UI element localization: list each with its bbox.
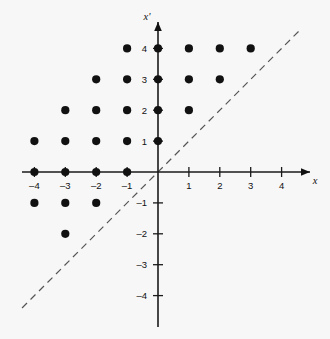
- data-point: [216, 75, 224, 83]
- x-tick-label: –2: [91, 180, 102, 191]
- data-point: [30, 137, 38, 145]
- data-point: [123, 44, 131, 52]
- data-point: [61, 230, 69, 238]
- data-point: [92, 168, 100, 176]
- plot-canvas: –4–3–2–112344321–1–2–3–4 x x': [0, 0, 330, 339]
- x-tick-label: –3: [60, 180, 71, 191]
- data-point: [30, 168, 38, 176]
- x-tick-label: –1: [122, 180, 133, 191]
- scatter-plot-figure: –4–3–2–112344321–1–2–3–4 x x': [0, 0, 330, 339]
- data-point: [154, 75, 162, 83]
- data-point: [92, 137, 100, 145]
- data-point: [185, 44, 193, 52]
- data-point: [30, 199, 38, 207]
- x-tick-label: –4: [29, 180, 40, 191]
- y-axis-arrowhead: [154, 22, 162, 31]
- data-point: [247, 44, 255, 52]
- y-tick-label: 3: [142, 74, 147, 85]
- y-tick-label: –1: [136, 197, 147, 208]
- data-point: [92, 199, 100, 207]
- y-tick-label: –4: [136, 290, 147, 301]
- data-point: [123, 137, 131, 145]
- data-point: [92, 75, 100, 83]
- x-axis-title: x: [312, 175, 318, 186]
- data-point: [61, 168, 69, 176]
- y-axis-title: x': [143, 11, 152, 22]
- data-point: [154, 106, 162, 114]
- data-point: [185, 106, 193, 114]
- x-axis-arrowhead: [301, 168, 310, 176]
- y-tick-label: 1: [142, 136, 147, 147]
- data-point: [123, 106, 131, 114]
- data-point: [61, 137, 69, 145]
- data-point: [123, 75, 131, 83]
- data-point: [154, 44, 162, 52]
- data-point: [61, 199, 69, 207]
- data-point: [216, 44, 224, 52]
- y-tick-label: 2: [142, 105, 147, 116]
- data-point: [185, 75, 193, 83]
- x-tick-label: 2: [217, 180, 222, 191]
- x-tick-label: 1: [186, 180, 191, 191]
- y-tick-label: –2: [136, 228, 147, 239]
- data-point: [61, 106, 69, 114]
- data-point: [92, 106, 100, 114]
- y-tick-label: 4: [142, 43, 147, 54]
- data-point: [123, 168, 131, 176]
- x-tick-label: 3: [248, 180, 253, 191]
- data-point: [154, 137, 162, 145]
- y-tick-label: –3: [136, 259, 147, 270]
- x-tick-label: 4: [279, 180, 284, 191]
